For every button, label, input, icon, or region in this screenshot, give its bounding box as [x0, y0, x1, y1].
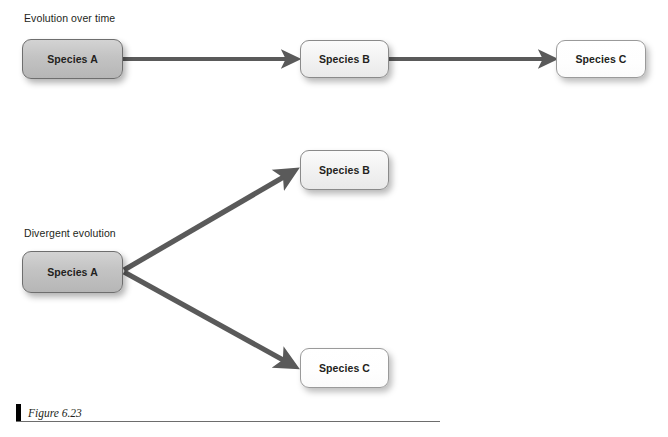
node-label: Species B	[319, 164, 370, 176]
node-label: Species A	[47, 266, 98, 278]
node-label: Species C	[319, 362, 370, 374]
node-label: Species B	[319, 53, 370, 65]
node-label: Species C	[575, 53, 626, 65]
node-divergent-species-c: Species C	[300, 348, 389, 388]
caption-accent-bar	[16, 404, 21, 422]
caption-divider	[16, 421, 440, 422]
figure-caption: Figure 6.23	[28, 408, 82, 420]
node-linear-species-a: Species A	[22, 39, 123, 79]
node-divergent-species-a: Species A	[22, 251, 123, 293]
node-linear-species-b: Species B	[300, 40, 389, 78]
node-linear-species-c: Species C	[556, 40, 646, 78]
node-label: Species A	[47, 53, 98, 65]
figure-container: Evolution over time Species A Species B …	[0, 0, 668, 437]
node-divergent-species-b: Species B	[300, 150, 389, 190]
